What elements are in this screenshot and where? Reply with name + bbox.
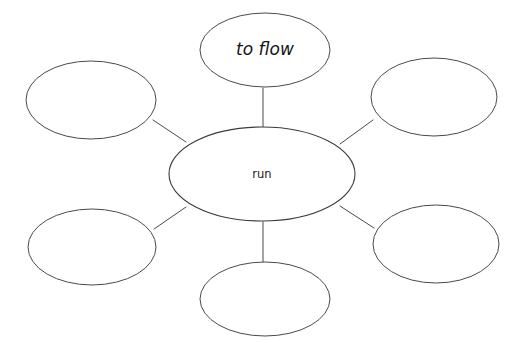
- bubble-bottom-left-shape[interactable]: [28, 209, 156, 285]
- bubble-top-label: to flow: [236, 39, 294, 59]
- center-bubble-label: run: [252, 167, 271, 181]
- connector-line-bottom-right: [340, 206, 374, 228]
- bubble-top-right-shape[interactable]: [371, 58, 497, 136]
- bubble-bottom-shape[interactable]: [200, 262, 330, 336]
- connector-line-top-left: [153, 120, 186, 142]
- bubble-label-group: to flow: [236, 39, 294, 59]
- connector-line-bottom-left: [154, 207, 186, 229]
- word-web-diagram: run to flow: [0, 0, 522, 351]
- connector-line-top-right: [340, 120, 373, 144]
- word-web-canvas: run to flow: [0, 0, 522, 351]
- bubble-bottom-right-shape[interactable]: [373, 205, 499, 283]
- bubble-top-left-shape[interactable]: [26, 61, 156, 139]
- center-bubble-group: run: [169, 127, 355, 221]
